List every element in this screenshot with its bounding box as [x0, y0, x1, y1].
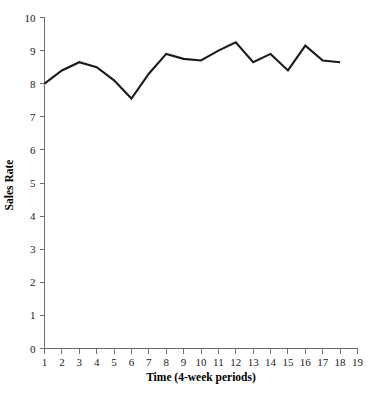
x-tick-label: 1	[42, 356, 48, 368]
y-tick-label: 5	[30, 177, 36, 189]
x-tick-label: 13	[248, 356, 260, 368]
x-tick-label: 16	[300, 356, 312, 368]
y-tick-label: 2	[30, 276, 36, 288]
x-tick-label: 12	[230, 356, 241, 368]
y-tick-label: 6	[30, 144, 36, 156]
y-tick-label: 9	[30, 45, 36, 57]
x-tick-label: 18	[335, 356, 347, 368]
x-tick-label: 14	[265, 356, 277, 368]
x-tick-label: 8	[163, 356, 169, 368]
x-axis-title: Time (4-week periods)	[146, 371, 256, 384]
y-tick-label: 3	[30, 243, 36, 255]
y-tick-label: 7	[30, 111, 36, 123]
x-tick-label: 6	[129, 356, 135, 368]
x-tick-label: 5	[111, 356, 117, 368]
x-tick-label: 9	[181, 356, 187, 368]
x-tick-label: 3	[77, 356, 83, 368]
x-tick-label: 10	[196, 356, 208, 368]
line-chart: 012345678910 123456789101112131415161718…	[0, 0, 389, 393]
x-tick-label: 15	[282, 356, 294, 368]
x-tick-label: 2	[59, 356, 65, 368]
y-tick-label: 1	[30, 309, 36, 321]
x-tick-label: 4	[94, 356, 100, 368]
y-tick-label: 10	[25, 12, 37, 24]
x-tick-label: 7	[146, 356, 152, 368]
y-tick-label: 0	[30, 343, 36, 355]
x-tick-label: 19	[352, 356, 364, 368]
y-axis-title: Sales Rate	[3, 160, 15, 211]
y-tick-label: 4	[30, 210, 36, 222]
x-tick-label: 17	[317, 356, 329, 368]
chart-canvas: 012345678910 123456789101112131415161718…	[0, 0, 389, 393]
x-tick-label: 11	[213, 356, 224, 368]
y-tick-label: 8	[30, 78, 36, 90]
